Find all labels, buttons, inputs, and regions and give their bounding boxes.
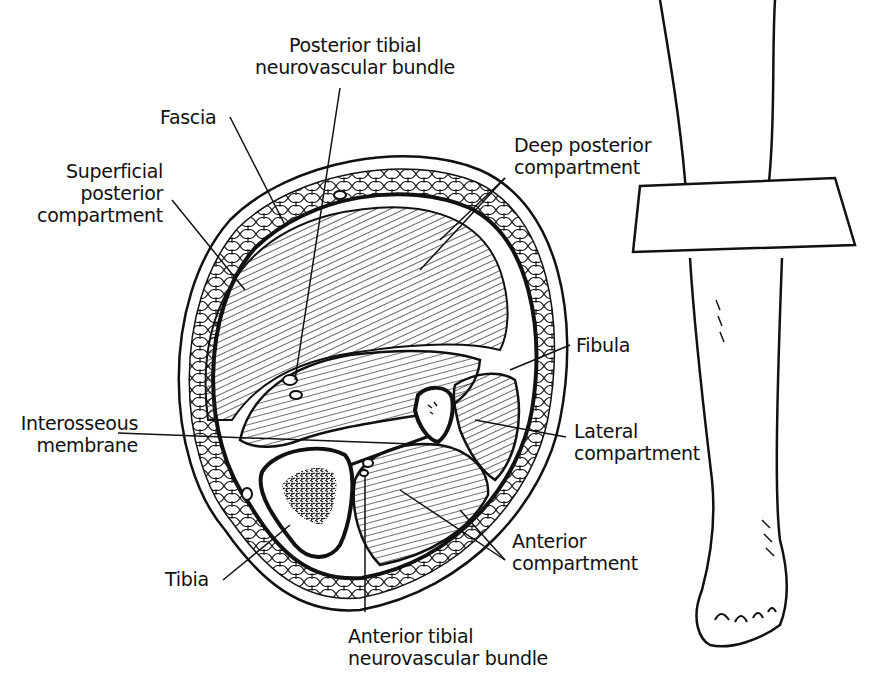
- label-interosseous-membrane: Interosseous membrane: [10, 412, 138, 456]
- label-fibula: Fibula: [576, 334, 630, 356]
- leg-side-view: [633, 0, 855, 646]
- label-anterior-compartment: Anterior compartment: [512, 530, 638, 574]
- cross-section: [179, 156, 567, 610]
- section-plane: [633, 178, 855, 252]
- label-superficial-posterior: Superficial posterior compartment: [35, 160, 163, 226]
- label-lateral-compartment: Lateral compartment: [574, 420, 700, 464]
- lower-leg: [690, 258, 787, 646]
- anatomy-diagram: [0, 0, 879, 696]
- label-fascia: Fascia: [160, 106, 216, 128]
- label-anterior-tibial-bundle: Anterior tibial neurovascular bundle: [348, 625, 548, 669]
- label-tibia: Tibia: [165, 568, 209, 590]
- label-posterior-tibial-bundle: Posterior tibial neurovascular bundle: [255, 34, 455, 78]
- label-deep-posterior: Deep posterior compartment: [514, 134, 651, 178]
